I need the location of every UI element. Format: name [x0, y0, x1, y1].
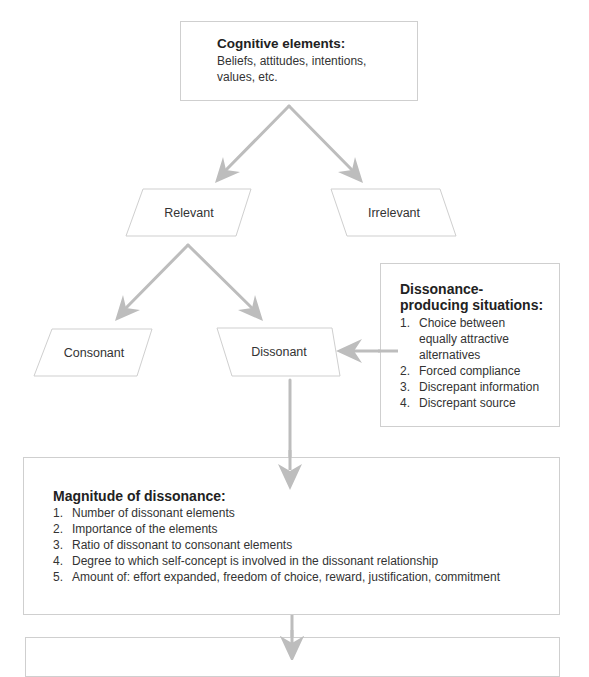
arrow-to-consonant: [124, 245, 188, 310]
dissonance-producing-title-line1: Dissonance-: [400, 281, 555, 297]
list-item: 3.Discrepant information: [400, 379, 555, 395]
irrelevant-label: Irrelevant: [336, 189, 452, 236]
next-box: [25, 637, 560, 677]
list-item: 5.Amount of: effort expanded, freedom of…: [53, 569, 553, 585]
cognitive-elements-box: Cognitive elements: Beliefs, attitudes, …: [180, 21, 418, 101]
list-item: 2.Forced compliance: [400, 363, 555, 379]
list-item: 3.Ratio of dissonant to consonant elemen…: [53, 537, 553, 553]
magnitude-box: Magnitude of dissonance: 1.Number of dis…: [23, 457, 560, 615]
cognitive-elements-title: Cognitive elements:: [217, 36, 366, 51]
arrow-to-irrelevant: [289, 106, 354, 172]
cognitive-elements-line2: values, etc.: [217, 69, 366, 85]
list-item: 1.Choice between equally attractive alte…: [400, 315, 555, 363]
cognitive-elements-line1: Beliefs, attitudes, intentions,: [217, 53, 366, 69]
list-item: 4.Discrepant source: [400, 395, 555, 411]
list-item: 2.Importance of the elements: [53, 521, 553, 537]
arrow-to-relevant: [224, 106, 289, 172]
dissonance-producing-box: Dissonance- producing situations: 1.Choi…: [380, 263, 560, 427]
magnitude-list: 1.Number of dissonant elements 2.Importa…: [53, 505, 553, 585]
list-item: 1.Number of dissonant elements: [53, 505, 553, 521]
dissonance-producing-title-line2: producing situations:: [400, 297, 555, 313]
dissonant-label: Dissonant: [222, 328, 336, 376]
relevant-label: Relevant: [130, 189, 248, 236]
list-item: 4.Degree to which self-concept is involv…: [53, 553, 553, 569]
consonant-label: Consonant: [40, 329, 148, 376]
magnitude-title: Magnitude of dissonance:: [53, 488, 553, 504]
arrow-to-dissonant: [188, 245, 254, 310]
dissonance-producing-list: 1.Choice between equally attractive alte…: [400, 315, 555, 411]
